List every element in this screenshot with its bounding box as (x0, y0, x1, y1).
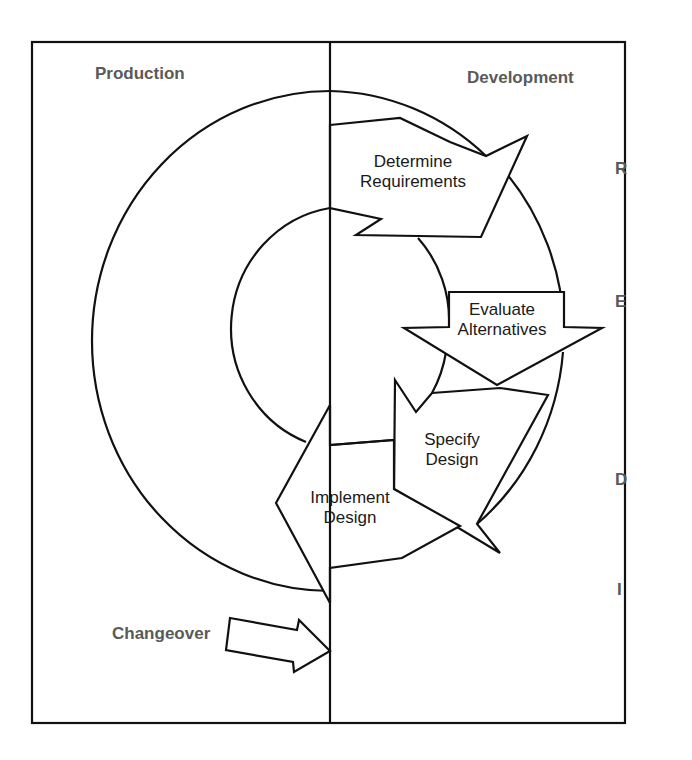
step-line-1: Implement (294, 488, 406, 508)
phase-letter-i: I (617, 580, 622, 600)
step-line-1: Specify (412, 430, 492, 450)
step-line-1: Evaluate (444, 300, 560, 320)
phase-letter-e: E (615, 292, 626, 312)
development-heading: Development (467, 68, 574, 88)
production-heading: Production (95, 64, 185, 84)
step-line-2: Design (412, 450, 492, 470)
step-line-2: Alternatives (444, 320, 560, 340)
phase-letter-d: D (615, 470, 627, 490)
changeover-label: Changeover (112, 624, 210, 644)
changeover-arrow[interactable] (226, 618, 330, 672)
redi-cycle-diagram (0, 0, 692, 760)
step-label-specify-design: Specify Design (412, 430, 492, 471)
phase-letter-r: R (615, 159, 627, 179)
step-line-2: Design (294, 508, 406, 528)
step-label-evaluate-alternatives: Evaluate Alternatives (444, 300, 560, 341)
inner-ring-left-arc (231, 208, 330, 442)
step-label-implement-design: Implement Design (294, 488, 406, 529)
step-label-determine-requirements: Determine Requirements (348, 152, 478, 193)
step-line-2: Requirements (348, 172, 478, 192)
frame (32, 42, 625, 723)
inner-ring-right-arc-2 (432, 352, 446, 393)
step-line-1: Determine (348, 152, 478, 172)
